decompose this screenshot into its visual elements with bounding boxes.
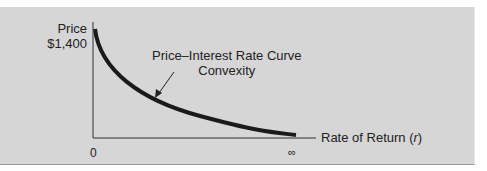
x-tick-infinity: ∞ [288,145,296,160]
curve-annotation: Price–Interest Rate Curve Convexity [152,48,302,78]
price-interest-curve [95,29,296,135]
x-tick-zero: 0 [90,146,97,161]
x-axis-label: Rate of Return (r) [321,130,422,145]
y-axis-label: Price $1,400 [47,21,87,51]
y-tick-label: $1,400 [47,36,87,51]
